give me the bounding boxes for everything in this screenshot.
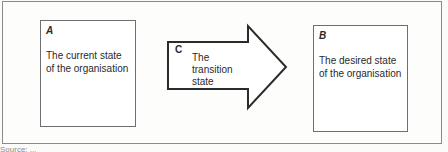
current-state-box: A The current state of the organisation <box>40 20 136 127</box>
arrow-c-label: C <box>175 44 182 55</box>
box-b-text: The desired state of the organisation <box>319 54 404 80</box>
box-a-text: The current state of the organisation <box>46 49 132 75</box>
desired-state-box: B The desired state of the organisation <box>313 25 408 132</box>
arrow-c-text: The transition state <box>192 52 252 88</box>
box-b-label: B <box>319 30 326 41</box>
figure-caption: Source: ... <box>0 146 36 152</box>
box-a-label: A <box>46 25 53 36</box>
